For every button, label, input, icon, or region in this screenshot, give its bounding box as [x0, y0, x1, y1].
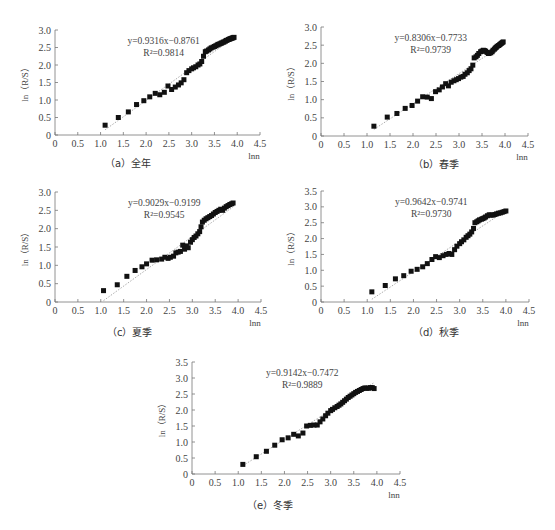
x-tick-label: 2.5 [430, 139, 443, 150]
data-point [429, 96, 434, 101]
regression-equation: y=0.9642x−0.9741 [395, 197, 468, 207]
y-tick-label: 0 [312, 297, 317, 308]
x-tick-label: 4.0 [499, 139, 512, 150]
y-tick-label: 2.5 [305, 40, 318, 51]
data-point [147, 94, 152, 99]
x-tick-label: 2.0 [140, 138, 153, 149]
y-axis-label: ln（R/S） [286, 227, 296, 266]
data-point [470, 63, 475, 68]
data-point [272, 443, 277, 448]
x-tick-label: 3.5 [348, 477, 361, 488]
x-tick-label: 0 [319, 139, 324, 150]
y-tick-label: 1.5 [305, 76, 318, 87]
data-point [231, 201, 236, 206]
data-point [197, 229, 202, 234]
r-squared-label: R²=0.9739 [410, 45, 451, 55]
x-tick-label: 1.5 [117, 138, 130, 149]
y-tick-label: 1.0 [39, 260, 52, 271]
data-point [409, 269, 414, 274]
y-tick-label: 0.5 [39, 112, 52, 123]
data-point [101, 288, 106, 293]
data-point [471, 226, 476, 231]
x-tick-label: 0 [53, 138, 58, 149]
data-point [503, 208, 508, 213]
data-point [232, 35, 237, 40]
y-tick-label: 2.0 [176, 405, 189, 416]
data-point [126, 109, 131, 114]
x-tick-label: 0 [319, 305, 324, 316]
x-axis-label: lnn [249, 318, 261, 328]
x-tick-label: 3.0 [185, 138, 198, 149]
x-tick-label: 3.0 [453, 305, 466, 316]
x-tick-label: 1.5 [384, 305, 397, 316]
scatter-plot-b: 00.51.01.52.02.53.03.54.04.500.51.01.52.… [269, 17, 538, 168]
y-tick-label: 0.5 [39, 278, 52, 289]
data-point [181, 77, 186, 82]
x-tick-label: 2.5 [163, 305, 176, 316]
r-squared-label: R²=0.9545 [144, 210, 185, 220]
x-tick-label: 3.5 [208, 138, 221, 149]
x-tick-label: 4.0 [231, 138, 244, 149]
data-point [300, 431, 305, 436]
data-point [501, 39, 506, 44]
chart-panel-d: 00.51.01.52.02.53.03.54.04.500.51.01.52.… [269, 181, 539, 334]
r-squared-label: R²=0.9814 [143, 48, 184, 58]
x-tick-label: 2.0 [407, 139, 420, 150]
y-axis-label: ln（R/S） [157, 399, 167, 438]
data-point [124, 274, 129, 279]
y-tick-label: 1.5 [176, 421, 189, 432]
data-point [280, 437, 285, 442]
y-tick-label: 3.5 [305, 186, 318, 197]
data-point [372, 386, 377, 391]
x-tick-label: 2.5 [163, 138, 176, 149]
y-tick-label: 2.0 [39, 223, 52, 234]
data-point [115, 282, 120, 287]
caption-b: （b）春季 [413, 156, 459, 171]
data-point [157, 92, 162, 97]
data-point [286, 435, 291, 440]
data-point [291, 432, 296, 437]
y-tick-label: 3.0 [176, 373, 189, 384]
y-axis-label: ln（R/S） [20, 63, 30, 102]
x-tick-label: 1.0 [361, 305, 374, 316]
y-axis-label: ln（R/S） [20, 228, 30, 267]
data-point [153, 91, 158, 96]
data-point [371, 124, 376, 129]
data-point [116, 115, 121, 120]
data-point [449, 252, 454, 257]
r-squared-label: R²=0.9730 [411, 209, 452, 219]
data-point [139, 264, 144, 269]
y-tick-label: 0 [183, 469, 188, 480]
trend-line [374, 45, 503, 130]
y-tick-label: 2.5 [39, 42, 52, 53]
x-tick-label: 1.5 [255, 477, 268, 488]
x-tick-label: 2.0 [278, 477, 291, 488]
data-point [199, 224, 204, 229]
y-axis-label: ln（R/S） [286, 62, 296, 101]
data-points [369, 208, 508, 294]
data-point [154, 257, 159, 262]
data-point [141, 98, 146, 103]
x-axis-label: lnn [516, 152, 528, 162]
data-point [420, 94, 425, 99]
x-tick-label: 1.0 [94, 138, 107, 149]
x-tick-label: 0.5 [72, 138, 85, 149]
x-tick-label: 2.0 [140, 305, 153, 316]
x-tick-label: 3.5 [476, 139, 489, 150]
regression-equation: y=0.8306x−0.7733 [394, 33, 467, 43]
data-point [254, 454, 259, 459]
y-tick-label: 2.5 [39, 205, 52, 216]
regression-equation: y=0.9316x−0.8761 [127, 36, 200, 46]
x-tick-label: 4.5 [254, 138, 267, 149]
data-point [144, 261, 149, 266]
data-point [401, 273, 406, 278]
scatter-plot-c: 00.51.01.52.02.53.03.54.04.500.51.01.52.… [3, 182, 271, 334]
x-tick-label: 4.5 [394, 477, 407, 488]
y-tick-label: 1.5 [305, 249, 318, 260]
x-tick-label: 2.5 [430, 305, 443, 316]
data-point [201, 54, 206, 59]
x-tick-label: 4.5 [522, 139, 535, 150]
x-axis-label: lnn [517, 318, 529, 328]
y-tick-label: 3.5 [176, 357, 189, 368]
data-point [369, 289, 374, 294]
